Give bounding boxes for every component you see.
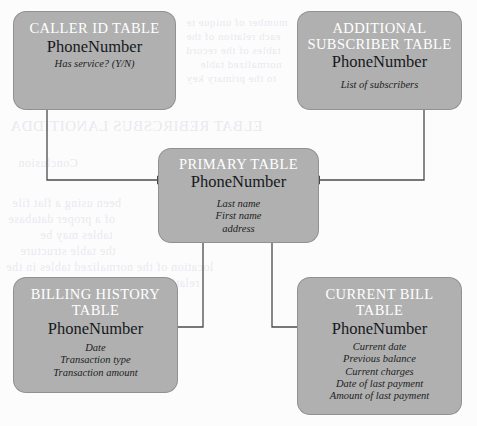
table-node-additional-subscriber[interactable]: ADDITIONAL SUBSCRIBER TABLE PhoneNumber … [297,11,462,110]
page-bleed-through-text: to the primary key [186,72,276,84]
table-title: ADDITIONAL SUBSCRIBER TABLE [297,20,462,52]
table-primary-key: PhoneNumber [297,52,462,71]
table-field: Amount of last payment [297,390,462,402]
table-field-list: List of subscribers [297,79,462,91]
table-field: Transaction type [13,354,178,366]
table-field: Current charges [297,366,462,378]
table-field: Date [13,342,178,354]
table-node-billing-history[interactable]: BILLING HISTORY TABLE PhoneNumber Date T… [13,277,178,393]
table-field: Previous balance [297,353,462,365]
table-field-list: Current date Previous balance Current ch… [297,341,462,402]
table-primary-key: PhoneNumber [297,319,462,338]
page-bleed-through-text: each relation of the [186,30,281,42]
table-primary-key: PhoneNumber [13,37,176,56]
table-title: PRIMARY TABLE [158,156,319,172]
table-title: CURRENT BILL TABLE [297,286,462,318]
table-field: address [158,223,319,235]
table-field: Last name [158,198,319,210]
page-bleed-through-text: of a proper database [8,212,115,227]
table-field: Current date [297,341,462,353]
table-title: CALLER ID TABLE [13,20,176,36]
page-bleed-through-text: tables may be [40,228,112,243]
page-bleed-through-text: Conclusion [18,156,78,171]
table-node-primary[interactable]: PRIMARY TABLE PhoneNumber Last name Firs… [158,148,319,243]
page-bleed-through-text: normalized table [200,58,282,70]
table-node-caller-id[interactable]: CALLER ID TABLE PhoneNumber Has service?… [13,11,176,110]
page-bleed-through-text: been using a flat file [12,196,121,211]
table-field: First name [158,210,319,222]
page-bleed-through-text: tables of the record [186,44,281,56]
table-field-list: Has service? (Y/N) [13,58,176,70]
table-field: List of subscribers [297,79,462,91]
page-bleed-through-text: the table structure [20,244,115,259]
table-field: Transaction amount [13,367,178,379]
table-field: Date of last payment [297,378,462,390]
table-primary-key: PhoneNumber [13,319,178,338]
table-node-current-bill[interactable]: CURRENT BILL TABLE PhoneNumber Current d… [297,277,462,415]
table-primary-key: PhoneNumber [158,172,319,191]
table-field-list: Date Transaction type Transaction amount [13,342,178,379]
page-bleed-through-text: mumber of unique te [186,16,287,28]
table-title: BILLING HISTORY TABLE [13,286,178,318]
page-bleed-through-text: ELBAT REBIRCSBUS LANOITIDDA [10,118,262,135]
table-relationship-diagram: mumber of unique te each relation of the… [0,0,477,426]
table-field-list: Last name First name address [158,198,319,235]
page-bleed-through-text: location of the normalized tables in the [6,260,213,275]
table-field: Has service? (Y/N) [13,58,176,70]
